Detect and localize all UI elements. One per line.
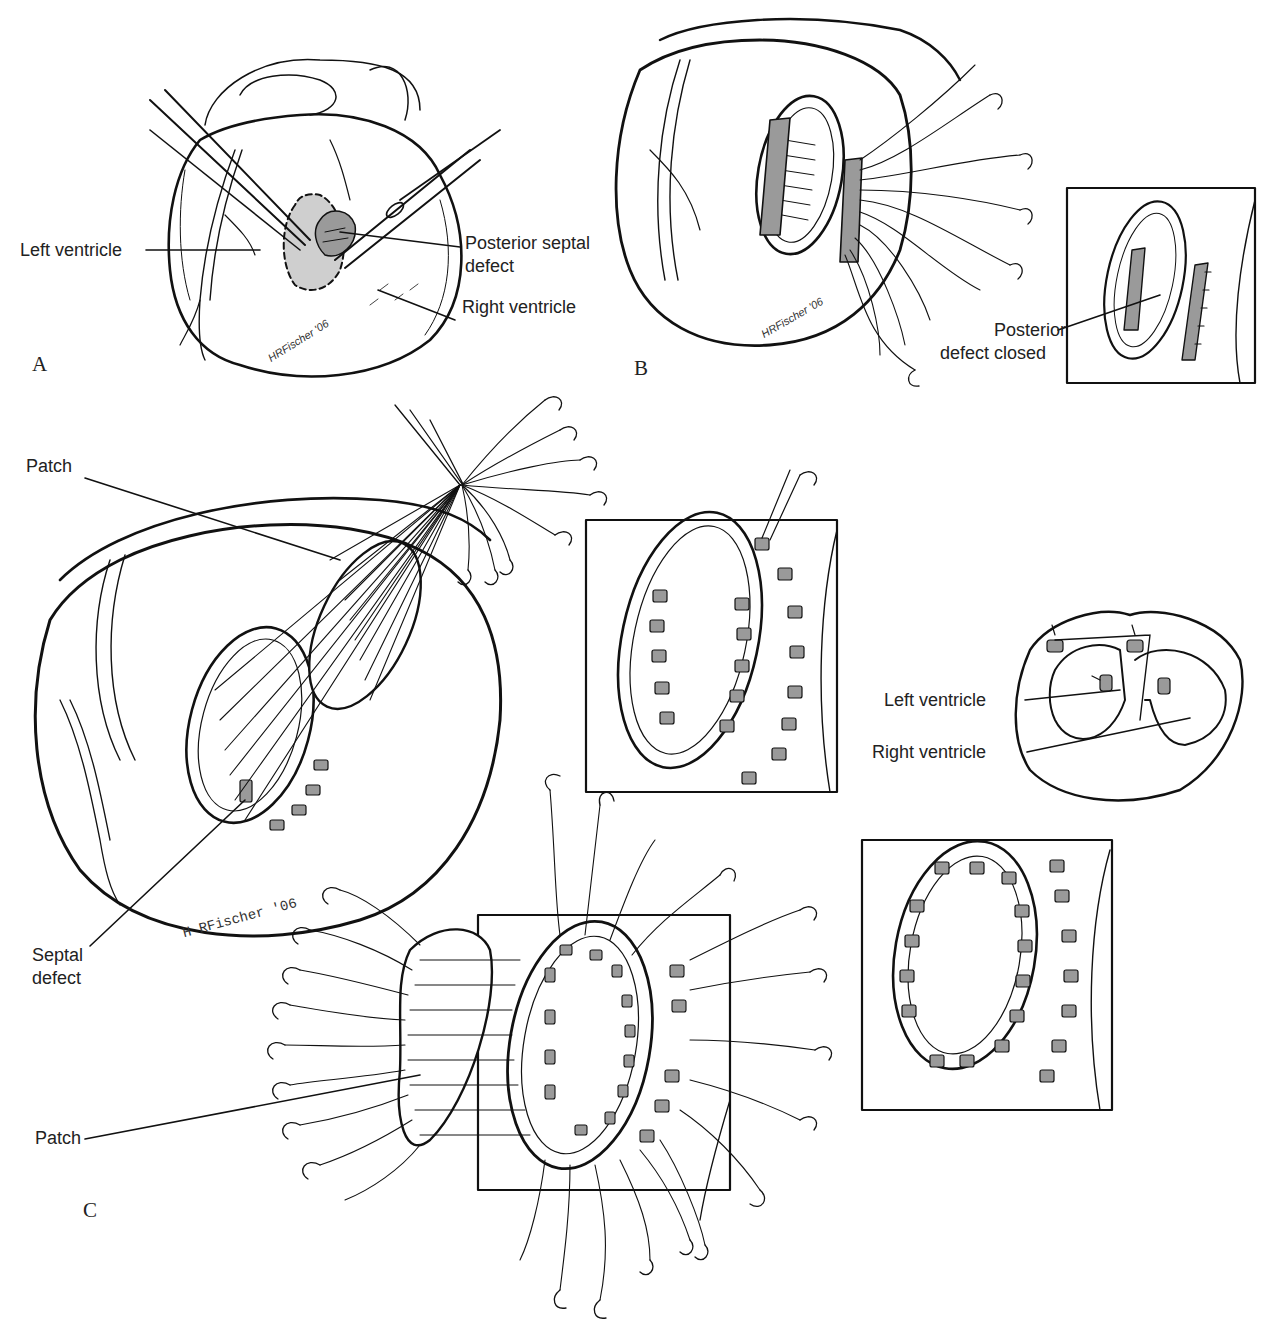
panel-b-heart [616,19,1255,386]
panel-letter-a: A [32,352,47,377]
panel-c-inset-upper [586,470,837,792]
label-c-cross-left-ventricle: Left ventricle [884,690,986,711]
panel-c-cross-section [1016,612,1243,800]
label-a-posterior-septal-defect-line2: defect [465,256,514,277]
leader-c-cross-left-ventricle [1025,690,1120,700]
label-a-posterior-septal-defect-line1: Posterior septal [465,233,590,254]
label-a-left-ventricle: Left ventricle [20,240,122,261]
leader-c-patch-bottom [85,1075,420,1139]
label-c-septal-defect-line2: defect [32,968,81,989]
leader-a-posterior-septal-defect [340,232,460,247]
surgical-illustration: Left ventricle Posterior septal defect R… [0,0,1278,1328]
illustration-artwork [0,0,1278,1328]
leader-c-patch-top [85,478,340,560]
label-b-posterior-defect-closed-line1: Posterior [990,320,1070,341]
leader-b-posterior-defect-closed [1058,295,1160,330]
panel-c-patch-suturing [85,774,832,1318]
panel-letter-b: B [634,356,648,381]
label-c-patch-bottom: Patch [35,1128,81,1149]
panel-b-inset-frame [1067,188,1255,383]
label-c-patch-top: Patch [26,456,72,477]
label-c-septal-defect-line1: Septal [32,945,83,966]
label-c-cross-right-ventricle: Right ventricle [872,742,986,763]
panel-letter-c: C [83,1198,97,1223]
label-a-right-ventricle: Right ventricle [462,297,576,318]
panel-c-inset-lower [862,830,1112,1110]
panel-c-heart-with-patch [35,397,606,946]
label-b-posterior-defect-closed-line2: defect closed [940,343,1046,364]
